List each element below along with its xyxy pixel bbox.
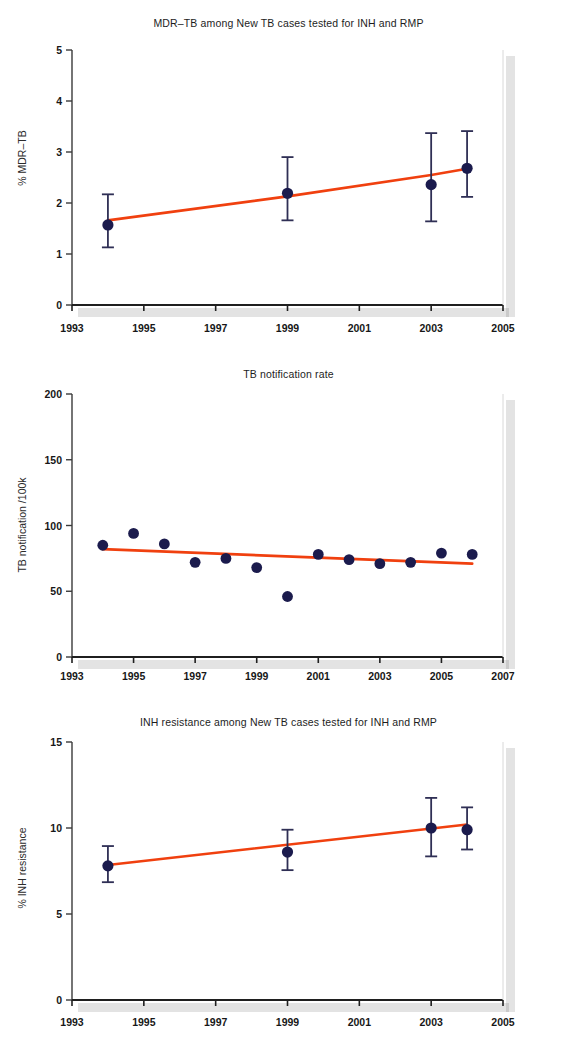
x-tick-label: 2003	[419, 1016, 442, 1028]
x-tick-label: 1999	[245, 670, 268, 682]
x-tick-label: 2003	[419, 322, 442, 334]
x-tick-label: 1997	[204, 1016, 227, 1028]
x-tick-label: 2007	[491, 670, 514, 682]
plot-area	[0, 0, 577, 352]
x-tick-label: 2001	[348, 1016, 371, 1028]
plot-area	[0, 352, 577, 700]
x-tick-labels: 1993199519971999200120032005	[0, 322, 577, 340]
chart-panel-inh-resistance: INH resistance among New TB cases tested…	[0, 700, 577, 1048]
x-tick-label: 1997	[183, 670, 206, 682]
x-tick-label: 2001	[348, 322, 371, 334]
x-tick-label: 1997	[204, 322, 227, 334]
x-tick-label: 2005	[491, 1016, 514, 1028]
x-tick-label: 1993	[60, 670, 83, 682]
x-tick-label: 1995	[122, 670, 145, 682]
x-tick-label: 1993	[60, 1016, 83, 1028]
x-tick-label: 1995	[132, 322, 155, 334]
x-tick-label: 1995	[132, 1016, 155, 1028]
x-tick-label: 1999	[276, 1016, 299, 1028]
x-tick-labels: 1993199519971999200120032005	[0, 1016, 577, 1034]
x-tick-label: 2003	[368, 670, 391, 682]
x-tick-label: 2005	[491, 322, 514, 334]
x-tick-labels: 19931995199719992001200320052007	[0, 670, 577, 688]
figure-page: MDR–TB among New TB cases tested for INH…	[0, 0, 577, 1048]
plot-area	[0, 700, 577, 1048]
x-tick-label: 2005	[430, 670, 453, 682]
x-tick-label: 1993	[60, 322, 83, 334]
x-tick-label: 2001	[307, 670, 330, 682]
x-tick-label: 1999	[276, 322, 299, 334]
chart-panel-tb-notification-rate: TB notification rate TB notification /10…	[0, 352, 577, 700]
chart-panel-mdr-tb: MDR–TB among New TB cases tested for INH…	[0, 0, 577, 352]
